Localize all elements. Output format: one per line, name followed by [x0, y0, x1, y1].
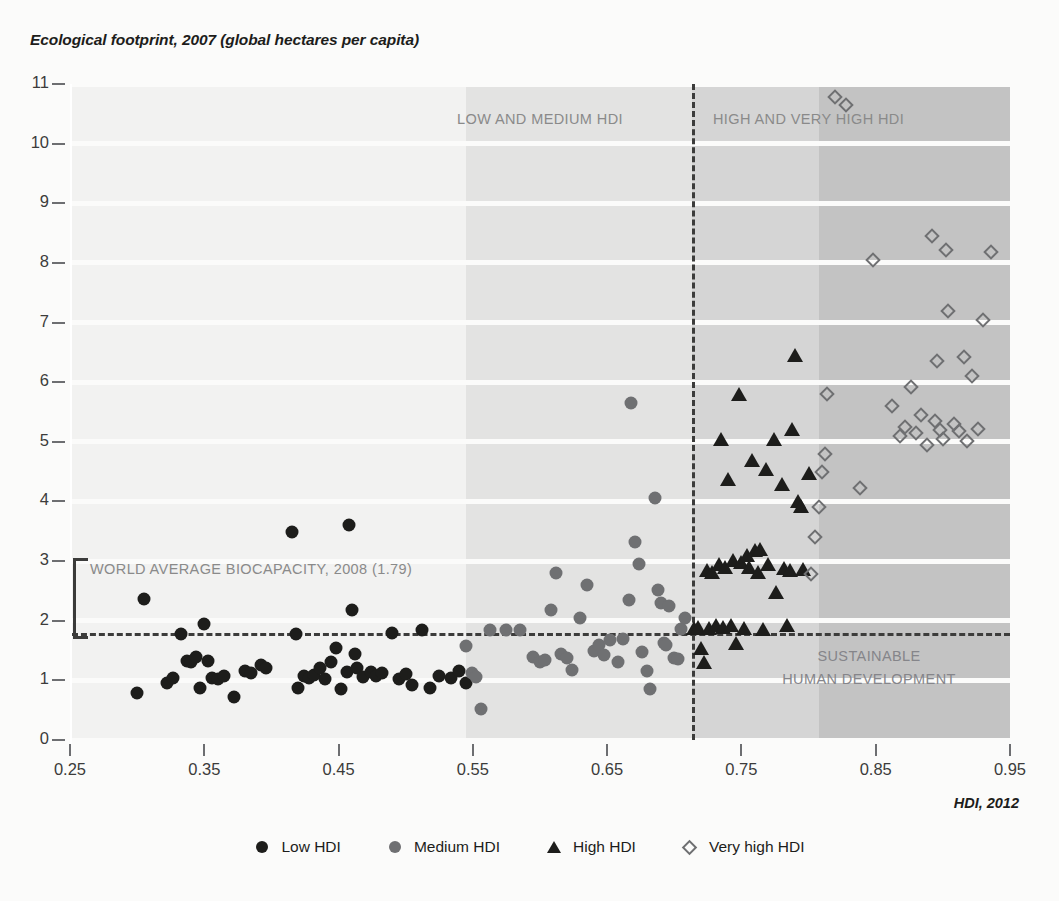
data-point-low-hdi-39 — [386, 626, 399, 639]
x-tick-label-0.55: 0.55 — [443, 760, 503, 779]
gridline-y-9 — [70, 201, 1010, 206]
data-point-medium-hdi-4 — [484, 623, 497, 636]
data-point-low-hdi-28 — [329, 641, 342, 654]
plot-area — [70, 84, 1010, 740]
data-point-medium-hdi-9 — [539, 654, 552, 667]
y-tick-3 — [52, 560, 65, 562]
data-point-low-hdi-13 — [218, 669, 231, 682]
y-tick-0 — [52, 739, 65, 741]
data-point-high-hdi-24 — [752, 542, 768, 556]
data-point-medium-hdi-25 — [629, 536, 642, 549]
legend-item-high-hdi[interactable]: High HDI — [546, 838, 636, 856]
legend-marker-circle-gray-icon — [387, 839, 403, 855]
annotation-human-development: HUMAN DEVELOPMENT — [782, 671, 956, 687]
annotation-low-and-medium-hdi: LOW AND MEDIUM HDI — [457, 111, 623, 127]
gridline-y-0 — [70, 738, 1010, 743]
x-tick-label-0.45: 0.45 — [309, 760, 369, 779]
chart-title: Ecological footprint, 2007 (global hecta… — [30, 31, 419, 49]
legend-glyph — [547, 841, 561, 853]
legend-marker-diamond-open-icon — [682, 839, 698, 855]
data-point-medium-hdi-37 — [672, 653, 685, 666]
data-point-low-hdi-44 — [423, 681, 436, 694]
data-point-high-hdi-9 — [713, 432, 729, 446]
data-point-low-hdi-4 — [175, 628, 188, 641]
data-point-high-hdi-28 — [766, 432, 782, 446]
data-point-medium-hdi-20 — [603, 633, 616, 646]
x-tick-label-0.95: 0.95 — [980, 760, 1040, 779]
y-tick-4 — [52, 500, 65, 502]
legend-item-medium-hdi[interactable]: Medium HDI — [387, 838, 500, 856]
data-point-medium-hdi-31 — [652, 583, 665, 596]
x-tick-0.35 — [203, 744, 205, 756]
legend-marker-triangle-dark-icon — [546, 839, 562, 855]
data-point-high-hdi-3 — [696, 655, 712, 669]
y-tick-label-11: 11 — [19, 73, 49, 92]
data-point-medium-hdi-34 — [660, 638, 673, 651]
annotation-world-average-biocapacity: WORLD AVERAGE BIOCAPACITY, 2008 (1.79) — [90, 561, 412, 577]
data-point-low-hdi-31 — [343, 519, 356, 532]
chart-legend: Low HDIMedium HDIHigh HDIVery high HDI — [0, 838, 1059, 856]
legend-item-label: High HDI — [573, 838, 636, 856]
data-point-high-hdi-12 — [720, 472, 736, 486]
data-point-low-hdi-18 — [260, 662, 273, 675]
y-tick-label-6: 6 — [19, 371, 49, 390]
legend-item-label: Low HDI — [281, 838, 340, 856]
data-point-medium-hdi-27 — [636, 645, 649, 658]
x-tick-0.65 — [606, 744, 608, 756]
x-tick-label-0.75: 0.75 — [711, 760, 771, 779]
gridline-y-7 — [70, 320, 1010, 325]
legend-item-low-hdi[interactable]: Low HDI — [254, 838, 340, 856]
data-point-high-hdi-29 — [768, 585, 784, 599]
y-tick-label-10: 10 — [19, 133, 49, 152]
y-tick-label-8: 8 — [19, 252, 49, 271]
legend-item-very-high-hdi[interactable]: Very high HDI — [682, 838, 805, 856]
x-tick-0.55 — [472, 744, 474, 756]
data-point-low-hdi-29 — [335, 683, 348, 696]
data-point-medium-hdi-22 — [617, 632, 630, 645]
data-point-low-hdi-32 — [346, 603, 359, 616]
y-tick-label-4: 4 — [19, 490, 49, 509]
legend-glyph — [256, 841, 268, 853]
data-point-high-hdi-32 — [779, 618, 795, 632]
data-point-medium-hdi-29 — [644, 683, 657, 696]
y-tick-8 — [52, 262, 65, 264]
y-tick-label-9: 9 — [19, 192, 49, 211]
data-point-medium-hdi-10 — [544, 603, 557, 616]
data-point-medium-hdi-2 — [469, 671, 482, 684]
data-point-medium-hdi-15 — [574, 611, 587, 624]
gridline-y-2 — [70, 618, 1010, 623]
gridline-y-6 — [70, 380, 1010, 385]
legend-item-label: Very high HDI — [709, 838, 805, 856]
biocapacity-reference-line — [72, 633, 1010, 636]
data-point-low-hdi-0 — [131, 687, 144, 700]
y-tick-7 — [52, 322, 65, 324]
data-point-medium-hdi-21 — [611, 656, 624, 669]
data-point-high-hdi-16 — [731, 387, 747, 401]
data-point-high-hdi-2 — [693, 641, 709, 655]
data-point-medium-hdi-19 — [598, 649, 611, 662]
y-tick-5 — [52, 441, 65, 443]
data-point-low-hdi-10 — [202, 655, 215, 668]
data-point-medium-hdi-0 — [460, 640, 473, 653]
data-point-low-hdi-8 — [194, 681, 207, 694]
data-point-high-hdi-15 — [728, 636, 744, 650]
y-tick-label-7: 7 — [19, 312, 49, 331]
y-tick-6 — [52, 381, 65, 383]
ecological-footprint-scatter-chart: Ecological footprint, 2007 (global hecta… — [0, 0, 1059, 901]
annotation-high-and-very-high-hdi: HIGH AND VERY HIGH HDI — [713, 111, 904, 127]
x-tick-label-0.65: 0.65 — [577, 760, 637, 779]
data-point-medium-hdi-28 — [641, 665, 654, 678]
data-point-low-hdi-26 — [319, 672, 332, 685]
data-point-low-hdi-38 — [375, 667, 388, 680]
biocapacity-bracket — [73, 558, 88, 639]
y-tick-label-1: 1 — [19, 669, 49, 688]
x-tick-0.95 — [1009, 744, 1011, 756]
gridline-y-11 — [70, 82, 1010, 87]
data-point-high-hdi-35 — [787, 348, 803, 362]
data-point-medium-hdi-24 — [625, 397, 638, 410]
data-point-medium-hdi-14 — [566, 663, 579, 676]
data-point-low-hdi-7 — [190, 650, 203, 663]
data-point-low-hdi-9 — [198, 617, 211, 630]
data-point-medium-hdi-35 — [662, 599, 675, 612]
y-tick-label-3: 3 — [19, 550, 49, 569]
